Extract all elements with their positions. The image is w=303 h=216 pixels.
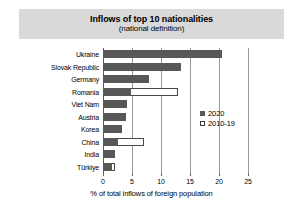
chart-row: China	[103, 136, 248, 149]
x-tick-label: 10	[157, 178, 165, 185]
tickmark-15	[190, 173, 191, 176]
chart-row: Romania	[103, 86, 248, 99]
chart-title-banner: Inflows of top 10 nationalities (nationa…	[19, 9, 284, 39]
bar-2020	[103, 138, 118, 146]
chart-row: Germany	[103, 73, 248, 86]
chart-row: Slovak Republic	[103, 61, 248, 74]
category-label: Slovak Republic	[51, 63, 99, 70]
bar-2020	[103, 75, 149, 83]
bar-2020	[103, 100, 127, 108]
legend-swatch-2010-19-icon	[200, 121, 205, 126]
category-label: Ukraine	[76, 51, 99, 58]
tickmark-0	[103, 173, 104, 176]
bar-2020	[103, 63, 181, 71]
legend-swatch-2020-icon	[200, 111, 205, 116]
chart-row: India	[103, 148, 248, 161]
bar-2020	[103, 88, 131, 96]
page-title: Inflows of top 10 nationalities	[90, 15, 213, 24]
category-label: Austria	[78, 113, 99, 120]
category-label: Korea	[81, 126, 99, 133]
bar-2020	[103, 113, 126, 121]
bar-2020	[103, 163, 112, 171]
chart-subtitle: (national definition)	[119, 25, 185, 33]
chart-row: Ukraine	[103, 48, 248, 61]
tickmark-5	[132, 173, 133, 176]
x-tick-label: 20	[215, 178, 223, 185]
category-label: India	[85, 151, 99, 158]
legend-item-2010-19: 2010-19	[200, 118, 235, 128]
legend-label-2010-19: 2010-19	[208, 119, 235, 128]
legend-label-2020: 2020	[208, 109, 224, 118]
category-label: China	[81, 138, 99, 145]
x-tick-label: 15	[186, 178, 194, 185]
chart-row: Türkiye	[103, 161, 248, 174]
category-label: Germany	[71, 76, 99, 83]
category-label: Türkiye	[77, 163, 99, 170]
category-label: Viet Nam	[72, 101, 99, 108]
chart-figure: Inflows of top 10 nationalities (nationa…	[0, 0, 303, 216]
tickmark-20	[219, 173, 220, 176]
chart-legend: 2020 2010-19	[200, 108, 235, 128]
tickmark-25	[248, 173, 249, 176]
bar-2020	[103, 125, 122, 133]
x-tick-label: 5	[130, 178, 134, 185]
x-axis-title: % of total inflows of foreign population	[0, 189, 303, 198]
bar-2020	[103, 150, 115, 158]
x-tick-label: 25	[244, 178, 252, 185]
bar-2020	[103, 50, 222, 58]
tickmark-10	[161, 173, 162, 176]
x-tick-label: 0	[101, 178, 105, 185]
legend-item-2020: 2020	[200, 108, 235, 118]
category-label: Romania	[72, 88, 99, 95]
gridline-25	[248, 48, 249, 173]
